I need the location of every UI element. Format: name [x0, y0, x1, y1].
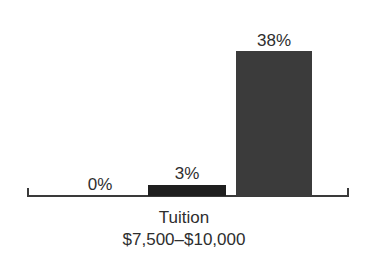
x-axis-label-line1: Tuition: [0, 208, 368, 228]
bar-chart: 0% 3% 38% Tuition $7,500–$10,000: [0, 0, 368, 260]
bar-2-value-label: 3%: [157, 164, 217, 184]
bar-1-value-label: 0%: [70, 175, 130, 195]
bar-2: [148, 185, 226, 196]
bar-3-value-label: 38%: [244, 31, 304, 51]
x-axis-label-line2: $7,500–$10,000: [0, 230, 368, 250]
bar-3: [236, 51, 312, 196]
